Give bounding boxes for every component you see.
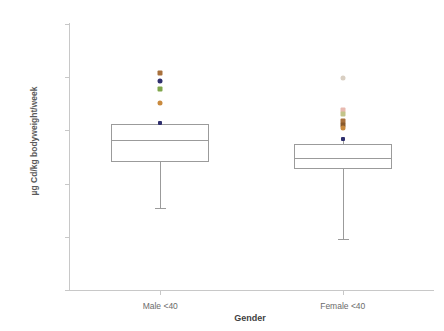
box-plot-group bbox=[69, 23, 434, 291]
boxplot-chart: µg Cd/kg bodyweight/week 1000.00100.0010… bbox=[0, 0, 444, 331]
x-tick-label: Female <40 bbox=[283, 301, 403, 311]
y-axis-title: µg Cd/kg bodyweight/week bbox=[29, 41, 39, 241]
upper-whisker-point bbox=[341, 137, 345, 141]
x-tick-label: Male <40 bbox=[100, 301, 220, 311]
x-tick-mark bbox=[160, 291, 161, 295]
box-rect bbox=[294, 144, 392, 169]
lower-whisker bbox=[343, 169, 344, 239]
lower-whisker-cap bbox=[338, 239, 349, 240]
outlier-point bbox=[340, 112, 345, 117]
x-tick-mark bbox=[343, 291, 344, 295]
outlier-point bbox=[340, 76, 345, 81]
outlier-point bbox=[340, 126, 345, 131]
plot-area: 1000.00100.0010.001.000.100.01 Male <40F… bbox=[69, 23, 434, 291]
median-line bbox=[294, 158, 392, 159]
x-axis-title: Gender bbox=[66, 313, 434, 323]
